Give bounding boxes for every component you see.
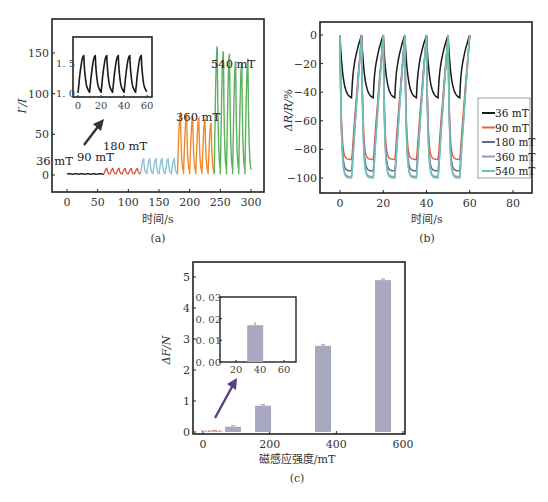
inset-x-tick-label: 40	[118, 100, 131, 111]
x-tick-label: 200	[179, 196, 200, 209]
series-line-540-mT	[340, 35, 470, 178]
x-tick-label: 80	[506, 197, 520, 210]
panel-caption: (b)	[419, 232, 435, 245]
legend-label: 540 mT	[495, 165, 535, 177]
x-tick-label: 300	[241, 196, 262, 209]
arrow-icon	[215, 385, 233, 418]
inset-x-tick-label: 20	[230, 364, 243, 375]
panel-c-chart: 02004006000123452040600. 000. 010. 020. …	[160, 262, 414, 485]
inset-y-tick-label: 1. 5	[56, 58, 75, 69]
x-tick-label: 0	[64, 196, 71, 209]
inset-y-tick-label: 0. 02	[196, 314, 221, 325]
y-tick-label: 3	[183, 333, 190, 346]
annotation-label: 540 mT	[211, 57, 256, 71]
legend-label: 180 mT	[495, 136, 535, 148]
bar	[225, 427, 241, 432]
y-tick-label: 5	[183, 271, 190, 284]
y-tick-label: −40	[294, 86, 317, 99]
inset-x-tick-label: 60	[141, 100, 154, 111]
inset-x-tick-label: 0	[75, 100, 81, 111]
panel-a-chart: 05010015020025030005010015036 mT90 mT180…	[16, 19, 264, 245]
bar	[315, 346, 331, 432]
figure-canvas: 05010015020025030005010015036 mT90 mT180…	[0, 0, 548, 502]
x-tick-label: 40	[420, 197, 434, 210]
inset-bar	[247, 325, 263, 362]
y-axis-label: ΔR/R/%	[282, 89, 295, 132]
x-tick-label: 600	[393, 438, 414, 451]
inset-x-tick-label: 40	[254, 364, 267, 375]
panel-caption: (a)	[150, 232, 165, 245]
panel-caption: (c)	[290, 472, 305, 485]
x-tick-label: 150	[149, 196, 170, 209]
bar	[375, 280, 391, 432]
y-tick-label: −60	[294, 115, 317, 128]
x-tick-label: 60	[463, 197, 477, 210]
y-axis-label: ΔF/N	[160, 335, 173, 365]
y-tick-label: −80	[294, 143, 317, 156]
legend-label: 360 mT	[495, 151, 535, 163]
x-tick-label: 20	[376, 197, 390, 210]
x-tick-label: 400	[326, 438, 347, 451]
inset-y-tick-label: 0. 01	[196, 335, 221, 346]
inset-y-tick-label: 1. 0	[56, 88, 75, 99]
x-tick-label: 50	[91, 196, 105, 209]
inset-series-line	[78, 56, 147, 93]
y-tick-label: 100	[28, 88, 49, 101]
x-axis-label: 磁感应强度/mT	[259, 452, 336, 466]
y-tick-label: 0	[183, 426, 190, 439]
inset-y-tick-label: 0. 03	[196, 292, 221, 303]
x-tick-label: 0	[337, 197, 344, 210]
annotation-label: 180 mT	[103, 139, 148, 153]
inset-x-tick-label: 60	[278, 364, 291, 375]
y-tick-label: 50	[35, 128, 49, 141]
y-tick-label: 0	[310, 29, 317, 42]
x-tick-label: 250	[210, 196, 231, 209]
inset-x-tick-label: 20	[95, 100, 108, 111]
x-axis-label: 时间/s	[411, 213, 443, 226]
x-axis-label: 时间/s	[142, 213, 174, 226]
y-tick-label: 0	[42, 169, 49, 182]
y-tick-label: 1	[183, 395, 190, 408]
y-axis-label: I′/I	[16, 98, 29, 115]
y-tick-label: 150	[28, 47, 49, 60]
bar	[255, 406, 271, 432]
y-tick-label: −100	[287, 172, 317, 185]
panel-b-chart: 0204060800−20−40−60−80−10036 mT90 mT180 …	[282, 22, 535, 245]
inset-y-tick-label: 0. 00	[196, 357, 221, 368]
series-line-36-mT	[67, 174, 104, 175]
series-line-180-mT	[141, 159, 178, 175]
annotation-label: 36 mT	[36, 154, 73, 168]
x-tick-label: 0	[200, 438, 207, 451]
legend-label: 90 mT	[495, 122, 529, 134]
y-tick-label: −20	[294, 58, 317, 71]
series-line-90-mT	[104, 169, 141, 175]
y-tick-label: 4	[183, 302, 190, 315]
annotation-label: 360 mT	[176, 110, 221, 124]
legend-label: 36 mT	[495, 107, 529, 119]
y-tick-label: 2	[183, 364, 190, 377]
x-tick-label: 200	[259, 438, 280, 451]
x-tick-label: 100	[118, 196, 139, 209]
